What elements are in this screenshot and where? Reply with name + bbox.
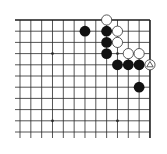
star-point xyxy=(51,119,54,122)
white-stone xyxy=(112,26,122,36)
star-point xyxy=(116,52,119,55)
white-stone xyxy=(134,49,144,59)
star-point xyxy=(116,119,119,122)
black-stone xyxy=(101,48,112,59)
go-board xyxy=(0,0,167,154)
grid-lines xyxy=(15,20,150,138)
black-stone xyxy=(80,26,91,37)
black-stone xyxy=(134,82,145,93)
black-stone xyxy=(123,59,134,70)
black-stone xyxy=(112,59,123,70)
black-stone xyxy=(101,37,112,48)
white-stone xyxy=(102,15,112,25)
black-stone xyxy=(134,59,145,70)
white-stone xyxy=(112,37,122,47)
star-point xyxy=(51,52,54,55)
white-stone xyxy=(123,49,133,59)
black-stone xyxy=(101,26,112,37)
